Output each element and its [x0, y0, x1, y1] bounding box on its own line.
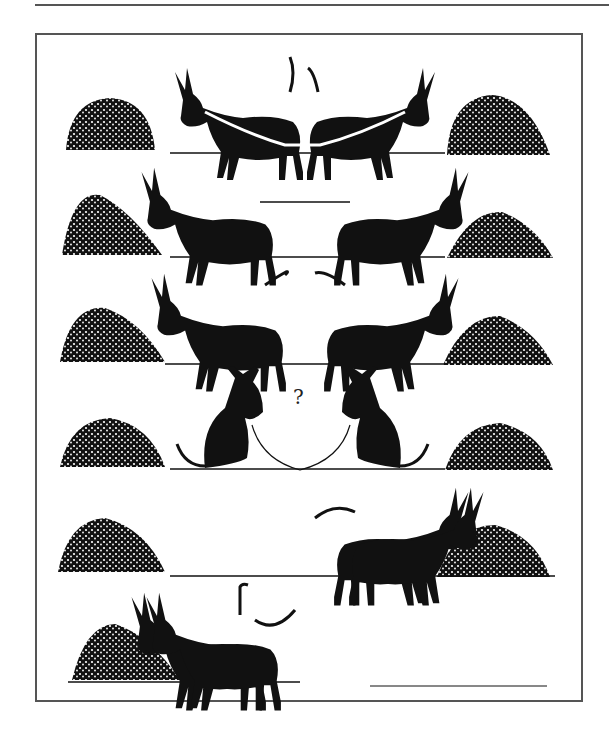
haystack-right [447, 212, 553, 258]
haystack-left [66, 98, 155, 150]
haystack-left [60, 308, 165, 362]
panel-4: ? [60, 366, 553, 470]
question-mark: ? [293, 385, 304, 409]
cartoon-illustration: ? [0, 0, 609, 731]
haystack-right [447, 95, 550, 155]
panel-3 [60, 272, 553, 392]
haystack-left [60, 418, 165, 467]
haystack-right [443, 316, 553, 365]
haystack-right [445, 423, 553, 470]
panel-5 [58, 488, 555, 606]
haystack-left [58, 518, 165, 572]
donkey-sitting-right [342, 366, 401, 468]
haystack-left [62, 195, 162, 255]
panel-6 [68, 584, 547, 710]
panel-1 [66, 57, 550, 180]
panel-2 [62, 168, 553, 286]
